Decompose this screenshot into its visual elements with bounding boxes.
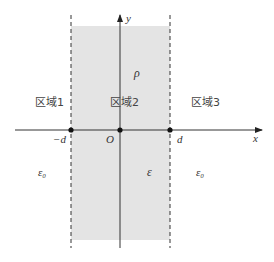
point-origin <box>117 127 122 132</box>
charge-density-label: ρ <box>133 66 140 80</box>
origin-label: O <box>106 133 114 145</box>
x-axis-label: x <box>252 132 258 144</box>
point-minus-d <box>68 127 73 132</box>
region-3-label: 区域3 <box>191 96 220 109</box>
diagram-canvas: y x O −d d 区域1 区域2 区域3 ρ ε₀ ε ε₀ <box>0 0 274 262</box>
d-label: d <box>177 133 183 145</box>
region-2-permittivity: ε <box>147 165 152 179</box>
point-d <box>167 127 172 132</box>
minus-d-label: −d <box>53 133 66 145</box>
region-1-label: 区域1 <box>35 96 64 109</box>
y-axis-label: y <box>125 12 131 24</box>
region-3-permittivity: ε₀ <box>196 166 204 178</box>
region-1-permittivity: ε₀ <box>38 166 46 178</box>
region-2-label: 区域2 <box>110 96 139 109</box>
